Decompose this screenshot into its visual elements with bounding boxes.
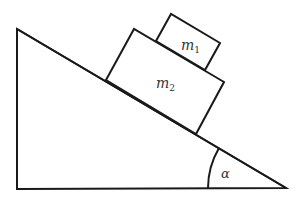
label-alpha: α [221,166,230,181]
diagram-canvas: m1 m2 α [0,0,301,197]
angle-arc [208,148,219,188]
inclined-plane-diagram: m1 m2 α [0,0,301,197]
